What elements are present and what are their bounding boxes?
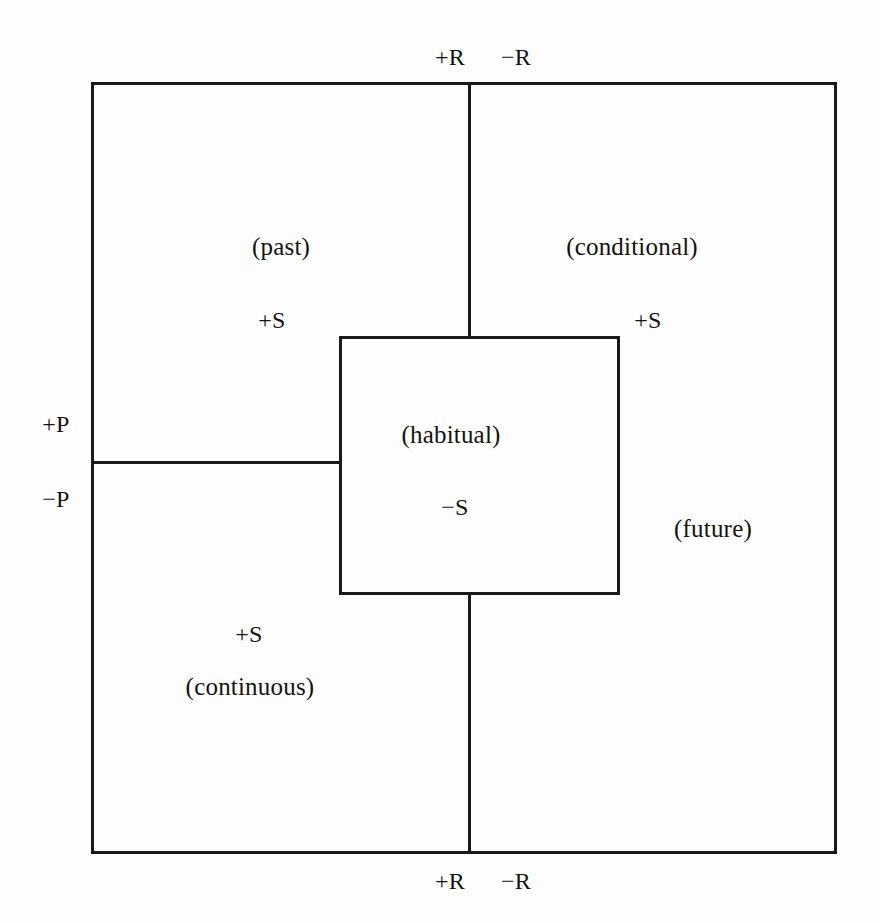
horizontal-divider (91, 461, 341, 464)
cell-label-continuous: (continuous) (186, 674, 315, 699)
axis-label-top-left: +R (435, 45, 465, 69)
center-box-bottom-edge (339, 592, 620, 595)
cell-label-habitual: (habitual) (401, 422, 500, 447)
outer-box-right-edge (834, 82, 837, 854)
cell-label-conditional: (conditional) (566, 234, 698, 259)
vertical-divider-lower (468, 592, 471, 854)
cell-sign-conditional: +S (634, 308, 661, 332)
axis-label-top-right: −R (501, 45, 531, 69)
vertical-divider-upper (468, 82, 471, 338)
center-box-right-edge (617, 336, 620, 595)
center-box-left-edge (339, 336, 342, 595)
cell-label-past: (past) (252, 234, 310, 259)
cell-sign-past: +S (258, 308, 285, 332)
cell-label-future: (future) (674, 516, 752, 541)
outer-box-left-edge (91, 82, 94, 854)
feature-matrix-diagram: +R −R +R −R +P −P (past) +S (conditional… (0, 0, 880, 923)
center-box-top-edge (339, 336, 620, 339)
axis-label-bottom-right: −R (501, 869, 531, 893)
axis-label-bottom-left: +R (435, 869, 465, 893)
cell-sign-continuous: +S (235, 622, 262, 646)
outer-box-bottom-edge (91, 851, 837, 854)
outer-box-top-edge (91, 82, 837, 85)
axis-label-left-upper: +P (42, 412, 69, 436)
axis-label-left-lower: −P (42, 487, 69, 511)
cell-sign-habitual: −S (441, 495, 468, 519)
